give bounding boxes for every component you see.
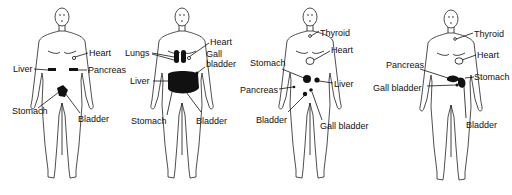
label-gall-bladder: bladder — [206, 59, 236, 69]
figure-1: Heart Liver Pancreas Stomach Bladder — [12, 8, 127, 178]
label-stomach: Stomach — [131, 116, 167, 126]
label-pancreas: Pancreas — [386, 60, 425, 70]
lungs-right-organ — [181, 50, 186, 63]
label-liver: Liver — [334, 79, 354, 89]
label-liver: Liver — [13, 64, 33, 74]
bladder-organ — [303, 92, 307, 96]
label-bladder: Bladder — [196, 116, 227, 126]
pancreas-organ — [293, 86, 296, 89]
label-lungs: Lungs — [125, 48, 150, 58]
label-stomach: Stomach — [474, 72, 510, 82]
label-thyroid: Thyroid — [474, 29, 504, 39]
label-bladder: Bladder — [78, 114, 109, 124]
label-heart: Heart — [331, 45, 354, 55]
label-pancreas: Pancreas — [88, 65, 127, 75]
liver-organ — [314, 77, 319, 82]
figure-2: Lungs Heart Gall bladder Liver Stomach B… — [125, 8, 236, 178]
organ-diagram: Heart Liver Pancreas Stomach Bladder Lun… — [0, 0, 512, 195]
liver-organ — [48, 68, 56, 71]
figure-3: Thyroid Heart Stomach Liver Pancreas Bla… — [240, 8, 369, 178]
gall-bladder-organ — [309, 88, 313, 92]
stomach-organ — [303, 75, 311, 83]
label-heart: Heart — [210, 37, 233, 47]
pancreas-organ — [69, 68, 78, 71]
figure-4: Thyroid Heart Pancreas Stomach Gall blad… — [373, 10, 510, 180]
heart-organ — [455, 58, 463, 64]
lungs-left-organ — [174, 50, 179, 63]
label-bladder: Bladder — [256, 115, 287, 125]
liver-organ — [168, 71, 199, 93]
body-outline — [420, 10, 482, 180]
label-heart: Heart — [477, 50, 500, 60]
label-bladder: Bladder — [466, 120, 497, 130]
label-gall-bladder: Gall bladder — [320, 121, 369, 131]
label-thyroid: Thyroid — [320, 28, 350, 38]
label-gall-bladder: Gall bladder — [373, 83, 422, 93]
label-liver: Liver — [130, 76, 150, 86]
thyroid-organ — [454, 38, 457, 41]
label-stomach: Stomach — [12, 106, 48, 116]
label-stomach: Stomach — [250, 58, 286, 68]
thyroid-organ — [309, 35, 312, 38]
label-gall: Gall — [206, 49, 222, 59]
heart-organ — [306, 58, 314, 65]
label-heart: Heart — [89, 48, 112, 58]
label-pancreas: Pancreas — [240, 85, 279, 95]
